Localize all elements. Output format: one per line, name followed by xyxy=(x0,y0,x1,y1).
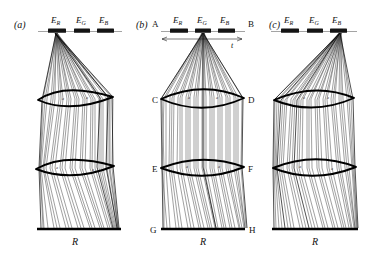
corner-label-h-b: H xyxy=(249,225,256,235)
corner-label-d-b: D xyxy=(248,95,255,105)
emitter-bar-green-c xyxy=(307,29,323,33)
emitter-label-red-b: ER xyxy=(172,15,183,26)
ray-bundle-b xyxy=(162,33,246,228)
lens-lower-c xyxy=(273,159,356,176)
emitter-label-red-c: ER xyxy=(283,15,294,26)
corner-label-e-b: E xyxy=(152,164,158,174)
emitter-bar-blue-a xyxy=(97,29,114,33)
corner-label-f-b: F xyxy=(248,164,253,174)
emitter-label-blue-a: EB xyxy=(98,15,109,26)
lens-upper-glyph-c: a xyxy=(303,95,305,100)
lens-lower-glyph-a: a xyxy=(56,165,58,170)
emitter-bar-blue-b xyxy=(218,29,235,33)
lens-lower-glyph-c: a xyxy=(299,164,301,169)
receiver-label-c: R xyxy=(311,236,318,247)
lens-lower-glyph2-b: a xyxy=(218,164,220,169)
lens-upper-glyph-a: a xyxy=(62,96,64,101)
emitter-bar-green-a xyxy=(74,29,90,33)
emitter-bar-red-a xyxy=(48,29,66,33)
emitter-label-red-a: ER xyxy=(50,15,61,26)
panel-a: (a) ER EG EB xyxy=(0,0,128,254)
lens-upper-glyph2-a: a xyxy=(86,95,88,100)
panel-c: (c) ER EG EB xyxy=(261,0,392,254)
panel-b-label: (b) xyxy=(136,19,148,31)
emitter-bar-green-b xyxy=(195,29,211,33)
emitter-bar-red-c xyxy=(281,29,299,33)
optical-raytrace-figure: (a) ER EG EB xyxy=(0,0,392,254)
corner-label-b-b: B xyxy=(248,19,254,29)
lens-lower-glyph-b: a xyxy=(186,164,188,169)
lens-upper-glyph2-c: a xyxy=(327,95,329,100)
lens-upper-glyph2-b: a xyxy=(216,95,218,100)
corner-label-a-b: A xyxy=(152,19,159,29)
corner-label-c-b: C xyxy=(152,95,158,105)
panel-a-label: (a) xyxy=(14,19,26,31)
emitter-label-blue-b: EB xyxy=(219,15,230,26)
panel-c-label: (c) xyxy=(269,19,281,31)
emitter-label-green-a: EG xyxy=(75,15,87,26)
lens-lower-glyph2-c: a xyxy=(331,166,333,171)
lens-lower-b xyxy=(161,160,244,176)
emitter-label-green-b: EG xyxy=(196,15,208,26)
lens-lower-glyph2-a: a xyxy=(92,167,94,172)
receiver-label-a: R xyxy=(71,236,78,247)
dimension-t-label-b: t xyxy=(231,41,234,50)
emitter-bar-blue-c xyxy=(330,29,347,33)
emitter-label-blue-c: EB xyxy=(331,15,342,26)
ray-bundle-c xyxy=(274,33,357,228)
lens-upper-glyph-b: a xyxy=(188,95,190,100)
receiver-label-b: R xyxy=(199,236,206,247)
emitter-bar-red-b xyxy=(170,29,188,33)
emitter-label-green-c: EG xyxy=(308,15,320,26)
corner-label-g-b: G xyxy=(150,225,157,235)
panel-b: (b) ER EG EB A B t xyxy=(128,0,261,254)
